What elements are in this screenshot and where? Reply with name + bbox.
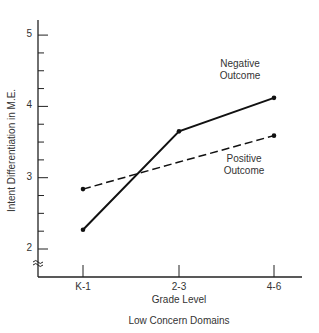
series-label-negative-line2: Outcome	[210, 70, 270, 82]
x-tick-label: 4-6	[254, 281, 294, 292]
series-label-positive-line1: Positive	[214, 153, 274, 165]
chart-title: Low Concern Domains	[109, 315, 249, 327]
series-label-negative-line1: Negative	[210, 58, 270, 70]
y-tick-label: 3	[22, 171, 32, 182]
y-tick-label: 5	[22, 28, 32, 39]
x-tick-label: 2-3	[159, 281, 199, 292]
y-axis-label: Intent Differentiation in M.E.	[6, 86, 17, 216]
x-axis-label: Grade Level	[139, 294, 219, 306]
y-tick-label: 2	[22, 242, 32, 253]
y-tick-label: 4	[22, 99, 32, 110]
series-label-negative: Negative Outcome	[210, 58, 270, 82]
series-label-positive: Positive Outcome	[214, 153, 274, 177]
y-ticks	[38, 35, 48, 249]
series-label-positive-line2: Outcome	[214, 165, 274, 177]
x-ticks	[83, 265, 274, 277]
x-tick-label: K-1	[63, 281, 103, 292]
